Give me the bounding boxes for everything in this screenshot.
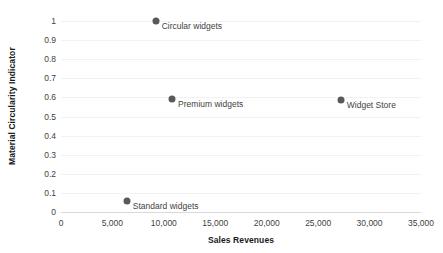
data-point-label: Circular widgets [162, 22, 222, 31]
data-point[interactable] [169, 96, 176, 103]
gridline [61, 78, 421, 79]
data-point[interactable] [152, 18, 159, 25]
gridline [61, 193, 421, 194]
y-tick-label: 0.9 [12, 36, 56, 45]
x-tick-label: 5,000 [102, 219, 123, 228]
data-point-label: Standard widgets [133, 201, 199, 210]
y-tick-label: 0.7 [12, 74, 56, 83]
x-tick-label: 0 [59, 219, 64, 228]
gridline [61, 21, 421, 22]
y-tick-label: 0.3 [12, 150, 56, 159]
y-tick-label: 0.8 [12, 55, 56, 64]
x-tick-label: 20,000 [254, 219, 280, 228]
y-axis-title: Material Circularity Indicator [7, 53, 17, 165]
gridline [61, 155, 421, 156]
gridline [61, 117, 421, 118]
gridline [61, 40, 421, 41]
x-axis-line [61, 212, 421, 213]
gridline [61, 136, 421, 137]
y-tick-label: 0.1 [12, 189, 56, 198]
y-tick-label: 0 [12, 208, 56, 217]
x-tick-label: 10,000 [151, 219, 177, 228]
y-tick-label: 0.2 [12, 170, 56, 179]
gridline [61, 174, 421, 175]
y-tick-label: 1 [12, 17, 56, 26]
data-point-label: Premium widgets [178, 100, 243, 109]
plot-area [61, 14, 421, 212]
x-tick-label: 25,000 [305, 219, 331, 228]
data-point[interactable] [337, 97, 344, 104]
data-point-label: Widget Store [347, 101, 396, 110]
scatter-chart: 10.90.80.70.60.50.40.30.20.10 05,00010,0… [0, 0, 443, 253]
x-tick-label: 35,000 [408, 219, 434, 228]
y-tick-label: 0.5 [12, 112, 56, 121]
x-axis-title: Sales Revenues [61, 235, 421, 245]
x-tick-label: 15,000 [202, 219, 228, 228]
x-tick-label: 30,000 [357, 219, 383, 228]
data-point[interactable] [123, 197, 130, 204]
gridline [61, 59, 421, 60]
y-tick-label: 0.6 [12, 93, 56, 102]
y-tick-label: 0.4 [12, 131, 56, 140]
